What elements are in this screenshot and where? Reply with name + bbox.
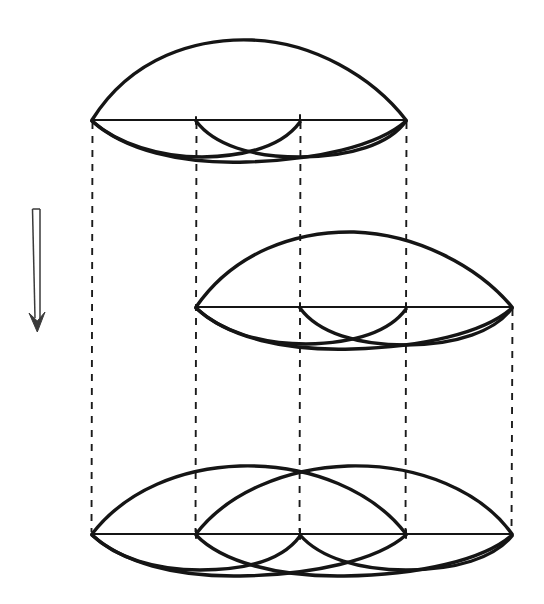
middle-upper-outer-arc <box>196 232 512 307</box>
top-lower-outer-arc <box>92 121 406 162</box>
middle-lens-panel <box>196 232 512 349</box>
bottom-upper-arc-2 <box>196 466 512 534</box>
downward-double-arrow <box>29 209 45 332</box>
lens-diagram-svg <box>0 0 544 604</box>
bottom-upper-arc-1 <box>92 466 406 534</box>
arrow-shaft-left <box>33 209 36 318</box>
bottom-lens-panel <box>92 466 512 576</box>
bottom-inner-lower-arc-1 <box>92 535 300 570</box>
projector-line-x512 <box>512 309 513 532</box>
arrow-head-icon <box>29 312 45 332</box>
bottom-lower-outer-arc-2 <box>196 535 512 576</box>
figure-canvas <box>0 0 544 604</box>
top-lens-panel <box>92 40 406 162</box>
middle-inner-lower-arc-1 <box>196 308 406 344</box>
projector-line-x92 <box>92 122 93 532</box>
top-upper-outer-arc <box>92 40 406 120</box>
bottom-lower-outer-arc-1 <box>92 535 406 576</box>
middle-lower-outer-arc <box>196 308 512 349</box>
